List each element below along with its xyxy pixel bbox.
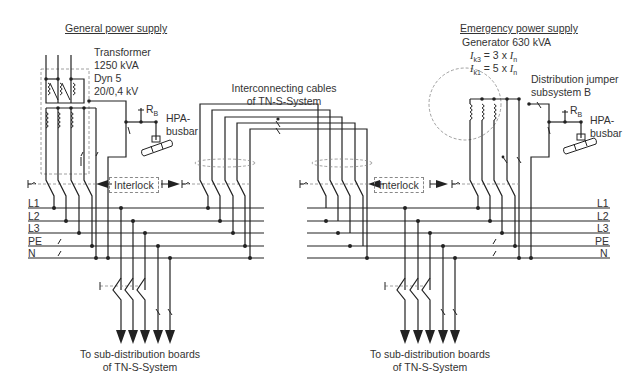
rb-label-right: RB	[570, 104, 582, 121]
incoming-switches-left	[28, 178, 110, 260]
in-subscript: n	[513, 69, 517, 76]
coupling-switches-left	[182, 178, 252, 260]
hpa-label-right-line1: HPA-	[590, 114, 614, 126]
emergency-power-supply-title: Emergency power supply	[460, 22, 578, 34]
busbar-label-l1-left: L1	[28, 197, 40, 209]
busbars-right	[307, 208, 610, 258]
jumper-label-line2: subsystem B	[531, 86, 591, 98]
hpa-label-left-line1: HPA-	[166, 112, 190, 124]
output-label-left-line1: To sub-distribution boards	[80, 348, 200, 360]
interconnect-label-line2: of TN-S-System	[247, 95, 321, 107]
ik3-eq: = 3 x	[481, 49, 510, 61]
ik1-formula: Ik1 = 5 x In	[470, 62, 517, 79]
busbar-label-l2-right: L2	[597, 210, 609, 222]
output-label-right-line1: To sub-distribution boards	[370, 348, 490, 360]
ik1-subscript: k1	[474, 69, 481, 76]
outgoing-feeder-right	[385, 206, 460, 344]
busbar-label-l3-right: L3	[597, 222, 609, 234]
transformer-label-line2: 1250 kVA	[94, 59, 139, 71]
busbar-label-pe-left: PE	[28, 235, 42, 247]
output-label-left-line2: of TN-S-System	[103, 361, 177, 373]
busbar-label-n-right: N	[600, 247, 608, 259]
busbar-label-l3-left: L3	[28, 222, 40, 234]
transformer-label-line4: 20/0,4 kV	[94, 85, 138, 97]
transformer-label-line3: Dyn 5	[94, 72, 121, 84]
general-power-supply-title: General power supply	[65, 22, 167, 34]
interconnecting-cables	[195, 104, 372, 258]
busbar-label-l1-right: L1	[597, 197, 609, 209]
outgoing-feeder-left	[100, 206, 175, 344]
interlock-box-right: Interlock	[374, 177, 424, 193]
generator-label: Generator 630 kVA	[462, 36, 551, 48]
jumper-label-line1: Distribution jumper	[531, 73, 619, 85]
coupling-switches-right	[300, 178, 369, 260]
busbar-label-pe-right: PE	[595, 235, 609, 247]
rb-subscript: B	[578, 111, 583, 118]
rb-label-left: RB	[146, 103, 158, 120]
busbar-label-l2-left: L2	[28, 210, 40, 222]
ik1-eq: = 5 x	[481, 62, 510, 74]
transformer-label-line1: Transformer	[94, 46, 151, 58]
busbar-label-n-left: N	[28, 247, 36, 259]
output-label-right-line2: of TN-S-System	[393, 361, 467, 373]
incoming-switches-right	[452, 178, 533, 260]
rb-subscript: B	[154, 110, 159, 117]
hpa-label-right-line2: busbar	[590, 127, 622, 139]
hpa-label-left-line2: busbar	[166, 125, 198, 137]
interconnect-label-line1: Interconnecting cables	[231, 82, 336, 94]
interlock-box-left: Interlock	[109, 177, 159, 193]
rb-text: R	[570, 104, 578, 116]
rb-text: R	[146, 103, 154, 115]
